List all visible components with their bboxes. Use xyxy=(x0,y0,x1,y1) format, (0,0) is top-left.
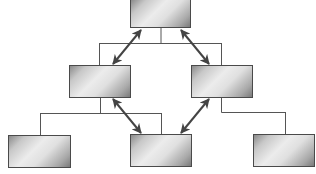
tree-connector-mid-left xyxy=(41,98,162,135)
node-top xyxy=(130,0,191,28)
arrow-top-mid-right xyxy=(181,30,209,64)
tree-connector-mid-right xyxy=(222,98,286,134)
node-bottom-right xyxy=(253,134,315,167)
arrow-mid-left-bottom-center xyxy=(113,99,141,133)
node-mid-left xyxy=(69,65,131,98)
arrow-top-mid-left xyxy=(113,30,141,64)
node-bottom-center xyxy=(130,134,192,167)
node-bottom-left xyxy=(8,135,71,168)
node-mid-right xyxy=(191,65,253,98)
hierarchy-diagram xyxy=(0,0,316,174)
arrow-mid-right-bottom-center xyxy=(181,99,209,133)
